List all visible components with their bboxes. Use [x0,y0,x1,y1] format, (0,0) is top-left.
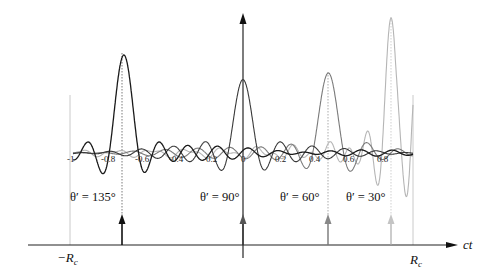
tick-label: 0.6 [343,154,355,164]
vertical-axis-arrow-icon [240,13,247,24]
tick-label: -0.8 [101,154,116,164]
rc-label: Rc [409,252,422,269]
arrow-30-head-icon [388,214,395,224]
tick-label: 0.8 [377,154,389,164]
theta-30-label: θ′ = 30° [346,190,386,204]
tick-label: 0.4 [309,154,321,164]
theta-135-label: θ′ = 135° [70,190,116,204]
theta-90-label: θ′ = 90° [200,190,240,204]
pulse-diagram: -1-0.8-0.6-0.4-0.200.20.40.60.8 ct −Rc R… [0,0,492,280]
ct-axis-label: ct [463,237,473,252]
tick-label: -0.2 [203,154,217,164]
tick-label: 0.2 [275,154,286,164]
minus-rc-label: −Rc [57,250,78,267]
arrow-135-head-icon [119,214,126,224]
tick-label: -0.4 [169,154,184,164]
theta-60-label: θ′ = 60° [280,190,320,204]
arrow-60-head-icon [325,214,332,224]
ct-axis-arrow-icon [446,242,458,248]
tick-label: -1 [67,154,75,164]
arrow-90-head-icon [240,214,247,224]
tick-label: 0 [241,154,246,164]
tick-label: -0.6 [135,154,150,164]
